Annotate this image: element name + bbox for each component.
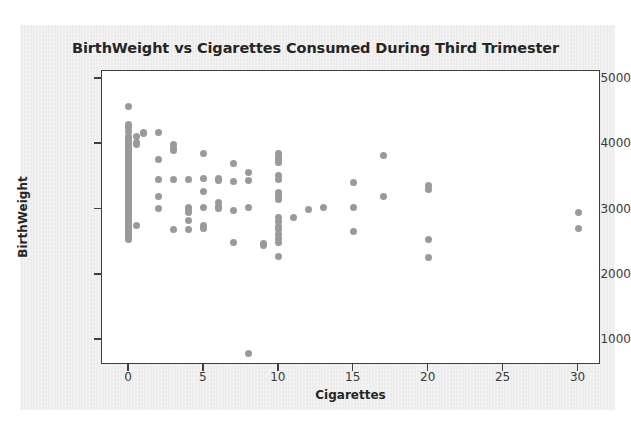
scatter-point — [170, 147, 177, 154]
scatter-point — [320, 204, 327, 211]
scatter-point — [245, 169, 252, 176]
y-tick-mark — [94, 338, 101, 340]
x-tick-label: 0 — [108, 370, 148, 384]
scatter-point — [200, 150, 207, 157]
scatter-point — [200, 204, 207, 211]
scatter-point — [200, 188, 207, 195]
scatter-point — [275, 196, 282, 203]
scatter-point — [200, 225, 207, 232]
scatter-point — [185, 226, 192, 233]
chart-screenshot: BirthWeight vs Cigarettes Consumed Durin… — [0, 0, 631, 427]
y-tick-mark — [94, 273, 101, 275]
scatter-point — [575, 209, 582, 216]
x-tick-mark — [127, 364, 129, 371]
scatter-point — [350, 228, 357, 235]
scatter-point — [380, 152, 387, 159]
y-tick-mark — [94, 142, 101, 144]
scatter-point — [380, 193, 387, 200]
scatter-point — [425, 236, 432, 243]
x-tick-mark — [202, 364, 204, 371]
x-tick-label: 15 — [333, 370, 373, 384]
scatter-point — [170, 226, 177, 233]
scatter-point — [230, 207, 237, 214]
scatter-point — [290, 214, 297, 221]
x-tick-mark — [427, 364, 429, 371]
scatter-point — [155, 193, 162, 200]
scatter-point — [215, 177, 222, 184]
y-axis-label: BirthWeight — [16, 176, 30, 257]
scatter-point — [305, 206, 312, 213]
scatter-point — [275, 159, 282, 166]
y-tick-mark — [94, 77, 101, 79]
scatter-point — [155, 176, 162, 183]
chart-title: BirthWeight vs Cigarettes Consumed Durin… — [0, 40, 631, 56]
x-axis-label: Cigarettes — [101, 388, 600, 402]
x-tick-label: 30 — [558, 370, 598, 384]
scatter-point — [245, 350, 252, 357]
scatter-point — [155, 205, 162, 212]
scatter-point — [185, 176, 192, 183]
scatter-point — [155, 156, 162, 163]
x-tick-label: 5 — [183, 370, 223, 384]
x-tick-mark — [352, 364, 354, 371]
x-tick-mark — [277, 364, 279, 371]
scatter-point — [350, 204, 357, 211]
scatter-point — [200, 175, 207, 182]
scatter-point — [155, 129, 162, 136]
scatter-point — [350, 179, 357, 186]
scatter-point — [245, 177, 252, 184]
scatter-point — [425, 186, 432, 193]
scatter-point — [575, 225, 582, 232]
y-tick-mark — [94, 208, 101, 210]
scatter-points-layer — [102, 71, 599, 363]
scatter-point — [230, 239, 237, 246]
scatter-point — [125, 103, 132, 110]
x-tick-label: 20 — [408, 370, 448, 384]
scatter-point — [170, 176, 177, 183]
scatter-point — [185, 217, 192, 224]
scatter-point — [133, 222, 140, 229]
scatter-point — [125, 236, 132, 243]
x-tick-mark — [502, 364, 504, 371]
x-tick-label: 10 — [258, 370, 298, 384]
scatter-point — [133, 141, 140, 148]
scatter-point — [275, 176, 282, 183]
scatter-point — [140, 130, 147, 137]
scatter-point — [425, 254, 432, 261]
scatter-point — [275, 253, 282, 260]
scatter-point — [230, 160, 237, 167]
scatter-point — [245, 204, 252, 211]
scatter-point — [185, 209, 192, 216]
x-tick-label: 25 — [483, 370, 523, 384]
scatter-point — [275, 239, 282, 246]
scatter-point — [230, 178, 237, 185]
scatter-point — [260, 242, 267, 249]
plot-area — [101, 70, 600, 364]
scatter-point — [215, 205, 222, 212]
x-tick-mark — [577, 364, 579, 371]
